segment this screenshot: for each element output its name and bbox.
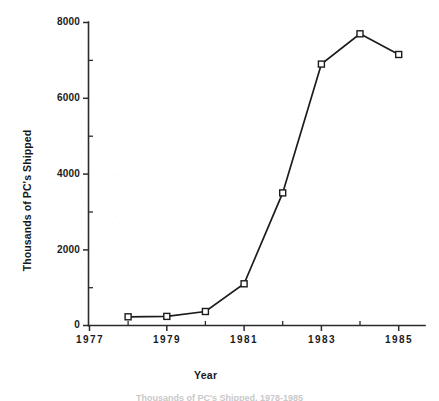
y-tick-label-2000: 2000 xyxy=(34,244,80,255)
data-point-marker xyxy=(125,314,131,320)
x-tick-label-1983: 1983 xyxy=(294,334,350,345)
y-tick-label-0: 0 xyxy=(34,319,80,330)
y-tick-label-6000: 6000 xyxy=(34,92,80,103)
data-point-marker xyxy=(164,313,170,319)
x-axis-major-ticks xyxy=(90,326,399,332)
x-tick-label-1985: 1985 xyxy=(371,334,427,345)
data-point-marker xyxy=(318,61,324,67)
x-tick-label-1977: 1977 xyxy=(62,334,118,345)
x-tick-label-1979: 1979 xyxy=(139,334,195,345)
figure-container: Thousands of PC's Shipped xyxy=(0,0,439,401)
data-series-line xyxy=(128,34,399,317)
data-point-marker xyxy=(241,281,247,287)
x-axis-title: Year xyxy=(0,369,439,381)
figure-caption: Thousands of PC's Shipped, 1978-1985 xyxy=(0,393,439,401)
data-point-marker xyxy=(202,309,208,315)
x-tick-label-1981: 1981 xyxy=(216,334,272,345)
y-tick-label-8000: 8000 xyxy=(34,16,80,27)
data-point-markers xyxy=(125,31,402,320)
data-point-marker xyxy=(357,31,363,37)
y-tick-label-4000: 4000 xyxy=(34,168,80,179)
data-point-marker xyxy=(396,52,402,58)
data-point-marker xyxy=(280,190,286,196)
